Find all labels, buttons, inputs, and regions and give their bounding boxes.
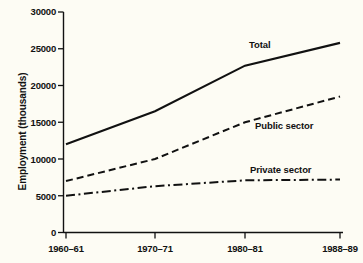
x-tick-label-1988-89: 1988–89 bbox=[310, 243, 363, 254]
series-label-private-sector: Private sector bbox=[250, 164, 311, 175]
y-tick-label-15000: 15000 bbox=[14, 117, 56, 128]
y-tick-label-5000: 5000 bbox=[14, 191, 56, 202]
y-tick-label-0: 0 bbox=[14, 227, 56, 238]
x-tick-label-1970-71: 1970–71 bbox=[125, 243, 185, 254]
series-label-public-sector: Public sector bbox=[255, 120, 313, 131]
y-tick-label-20000: 20000 bbox=[14, 80, 56, 91]
y-axis-title: Employment (thousands) bbox=[17, 0, 33, 263]
y-tick-marks bbox=[58, 12, 64, 233]
series-line-private-sector bbox=[66, 180, 340, 196]
x-tick-label-1980-81: 1980–81 bbox=[215, 243, 275, 254]
series-label-total: Total bbox=[249, 39, 271, 50]
x-tick-label-1960-61: 1960–61 bbox=[36, 243, 96, 254]
y-tick-label-30000: 30000 bbox=[14, 6, 56, 17]
y-tick-label-25000: 25000 bbox=[14, 43, 56, 54]
y-tick-label-10000: 10000 bbox=[14, 154, 56, 165]
x-tick-marks bbox=[66, 233, 340, 239]
